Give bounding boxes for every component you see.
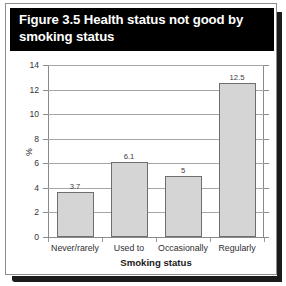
y-tick-mark-right xyxy=(264,163,269,164)
y-tick-label: 0 xyxy=(17,232,39,242)
y-tick-mark-right xyxy=(264,139,269,140)
bar-value-label: 5 xyxy=(161,166,205,175)
y-tick-label: 12 xyxy=(17,85,39,95)
x-category-label: Regularly xyxy=(204,243,270,253)
bar xyxy=(111,162,148,237)
bar-value-label: 6.1 xyxy=(107,152,151,161)
y-tick-mark-right xyxy=(264,212,269,213)
y-tick-mark-right xyxy=(264,90,269,91)
x-tick-mark xyxy=(156,238,157,242)
bar xyxy=(219,83,256,237)
bar-value-label: 3.7 xyxy=(53,182,97,191)
y-tick-label: 14 xyxy=(17,60,39,70)
y-tick-label: 4 xyxy=(17,183,39,193)
chart-plot: % 14121086420 3.76.1512.5 Never/rarelyUs… xyxy=(6,51,278,275)
card-shadow-right xyxy=(277,12,282,282)
y-tick-label: 2 xyxy=(17,207,39,217)
x-tick-mark xyxy=(210,238,211,242)
x-tick-mark xyxy=(102,238,103,242)
page-title: Figure 3.5 Health status not good by smo… xyxy=(19,12,265,45)
bar-series xyxy=(48,65,264,237)
y-tick-mark-right xyxy=(264,65,269,66)
y-tick-label: 10 xyxy=(17,109,39,119)
figure-card: Figure 3.5 Health status not good by smo… xyxy=(5,3,277,275)
figure-title-banner: Figure 3.5 Health status not good by smo… xyxy=(10,8,274,51)
y-tick-mark-right xyxy=(264,188,269,189)
y-tick-label: 6 xyxy=(17,158,39,168)
y-tick-label: 8 xyxy=(17,134,39,144)
x-axis-label: Smoking status xyxy=(48,257,264,268)
x-tick-mark xyxy=(264,238,265,242)
x-tick-mark xyxy=(48,238,49,242)
bar-value-label: 12.5 xyxy=(215,73,259,82)
card-shadow-bottom xyxy=(12,276,282,282)
bar xyxy=(57,192,94,237)
y-tick-mark-right xyxy=(264,114,269,115)
bar xyxy=(165,176,202,237)
